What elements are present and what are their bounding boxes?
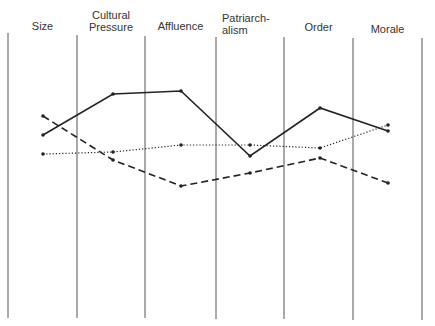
- category-separators: [8, 33, 422, 320]
- chart-plot: [0, 0, 435, 326]
